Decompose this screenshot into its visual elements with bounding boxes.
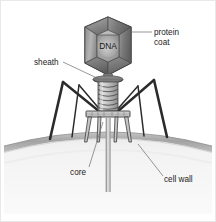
core-label: core [70,168,86,177]
sheath-label: sheath [34,58,59,67]
baseplate-bar [86,111,130,117]
protein-coat-head: DNA [85,17,131,75]
cell-wall-label: cell wall [164,175,193,184]
dna-label: DNA [99,41,117,51]
protein-coat-label-line1: protein [154,28,179,37]
sheath [98,82,118,111]
core-tube [106,118,111,192]
core-tube-lumen [107,118,109,192]
core-tube-right-wall [109,118,111,192]
protein-coat-label-line2: coat [154,38,170,47]
core-tube-left-wall [106,118,108,192]
sheath-highlight [100,82,103,111]
phage-diagram: DNA [0,0,216,222]
diagram-canvas: DNA [0,0,216,222]
